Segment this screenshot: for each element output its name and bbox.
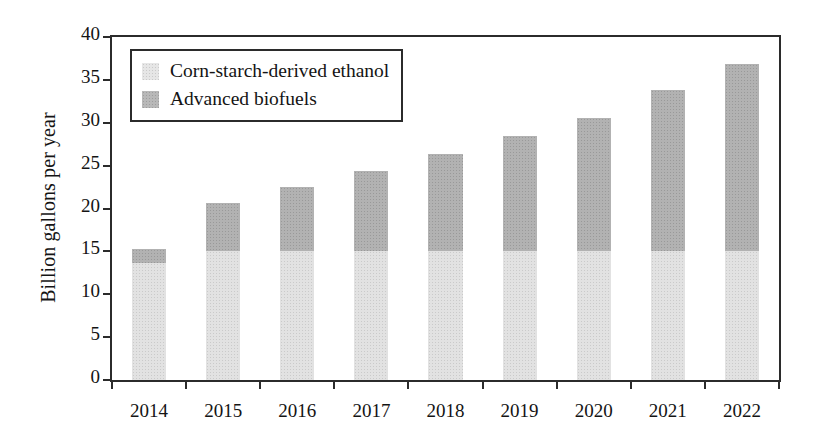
- bar-segment-advanced-biofuels-2018: [428, 154, 462, 252]
- stacked-bar-chart-figure: Billion gallons per year Corn-starch-der…: [0, 0, 817, 438]
- y-tick-label: 40: [62, 23, 100, 45]
- x-tick-mark: [630, 380, 632, 389]
- x-axis-category-label-2022: 2022: [697, 400, 787, 422]
- y-axis-title: Billion gallons per year: [37, 78, 60, 338]
- x-tick-mark: [778, 380, 780, 389]
- bar-segment-advanced-biofuels-2014: [132, 249, 166, 264]
- y-tick-mark: [103, 293, 112, 295]
- legend-swatch-advanced: [142, 91, 159, 108]
- plot-area: Corn-starch-derived ethanol Advanced bio…: [110, 35, 781, 382]
- bar-segment-corn-starch-2018: [428, 251, 462, 380]
- legend-label-corn-starch: Corn-starch-derived ethanol: [170, 60, 389, 82]
- bar-2017: [354, 171, 388, 380]
- y-tick-label: 0: [62, 366, 100, 388]
- y-tick-label: 5: [62, 323, 100, 345]
- bar-2020: [577, 118, 611, 380]
- y-tick-label: 10: [62, 280, 100, 302]
- y-tick-mark: [103, 122, 112, 124]
- x-tick-mark: [333, 380, 335, 389]
- bar-segment-advanced-biofuels-2016: [280, 187, 314, 251]
- bar-segment-advanced-biofuels-2019: [503, 136, 537, 252]
- y-tick-mark: [103, 208, 112, 210]
- x-tick-mark: [482, 380, 484, 389]
- legend-item-corn-starch: Corn-starch-derived ethanol: [142, 57, 389, 85]
- y-tick-label: 30: [62, 109, 100, 131]
- y-tick-mark: [103, 250, 112, 252]
- bar-2016: [280, 187, 314, 380]
- x-tick-mark: [556, 380, 558, 389]
- chart-legend: Corn-starch-derived ethanol Advanced bio…: [130, 49, 403, 122]
- y-tick-label: 35: [62, 66, 100, 88]
- y-tick-label: 20: [62, 195, 100, 217]
- bar-segment-advanced-biofuels-2020: [577, 118, 611, 252]
- y-tick-label: 25: [62, 152, 100, 174]
- y-tick-mark: [103, 36, 112, 38]
- legend-swatch-corn-starch: [142, 63, 159, 80]
- bar-segment-corn-starch-2016: [280, 251, 314, 380]
- bar-segment-advanced-biofuels-2021: [651, 90, 685, 251]
- y-tick-mark: [103, 79, 112, 81]
- y-tick-mark: [103, 165, 112, 167]
- bar-segment-corn-starch-2021: [651, 251, 685, 380]
- bar-2021: [651, 90, 685, 380]
- y-tick-label: 15: [62, 237, 100, 259]
- bar-2019: [503, 136, 537, 380]
- bar-2018: [428, 154, 462, 380]
- bar-segment-corn-starch-2015: [206, 251, 240, 380]
- legend-item-advanced-biofuels: Advanced biofuels: [142, 85, 389, 113]
- bar-segment-corn-starch-2019: [503, 251, 537, 380]
- bar-segment-corn-starch-2017: [354, 251, 388, 380]
- legend-label-advanced-biofuels: Advanced biofuels: [170, 88, 317, 110]
- bar-segment-corn-starch-2014: [132, 263, 166, 380]
- bar-segment-corn-starch-2020: [577, 251, 611, 380]
- x-tick-mark: [259, 380, 261, 389]
- bar-2014: [132, 249, 166, 380]
- x-tick-mark: [704, 380, 706, 389]
- x-tick-mark: [407, 380, 409, 389]
- bar-segment-advanced-biofuels-2017: [354, 171, 388, 252]
- bar-segment-corn-starch-2022: [725, 251, 759, 380]
- x-tick-mark: [111, 380, 113, 389]
- bar-segment-advanced-biofuels-2015: [206, 203, 240, 251]
- bar-segment-advanced-biofuels-2022: [725, 64, 759, 251]
- y-tick-mark: [103, 336, 112, 338]
- bar-2015: [206, 203, 240, 380]
- bar-2022: [725, 64, 759, 380]
- x-tick-mark: [185, 380, 187, 389]
